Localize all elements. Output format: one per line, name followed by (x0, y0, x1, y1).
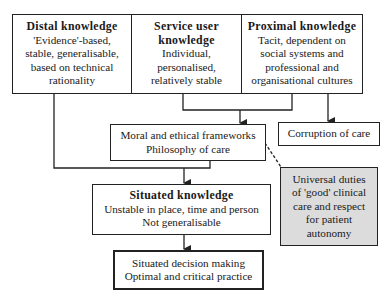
universal-line-3: care and respect (293, 200, 365, 213)
situated-line-2: Not generalisable (142, 216, 221, 229)
distal-line-3: based on technical (31, 61, 114, 74)
distal-knowledge-box: Distal knowledge 'Evidence'-based, stabl… (12, 14, 132, 94)
situated-knowledge-box: Situated knowledge Unstable in place, ti… (92, 184, 271, 235)
decision-line-1: Situated decision making (132, 257, 245, 270)
moral-ethical-frameworks-box: Moral and ethical frameworks Philosophy … (110, 124, 266, 161)
distal-title: Distal knowledge (27, 20, 118, 33)
corruption-line-1: Corruption of care (288, 127, 371, 140)
proximal-line-3: professional and (265, 61, 339, 74)
situated-line-1: Unstable in place, time and person (104, 203, 259, 216)
service-user-knowledge-box: Service user knowledge Individual, perso… (131, 14, 242, 94)
service-title-2: knowledge (158, 34, 214, 47)
proximal-line-1: Tacit, dependent on (258, 34, 346, 47)
proximal-line-4: organisational cultures (251, 74, 352, 87)
universal-line-1: Universal duties (292, 173, 365, 186)
moral-line-2: Philosophy of care (146, 143, 230, 156)
distal-line-2: stable, generalisable, (25, 47, 119, 60)
service-line-1: Individual, (162, 47, 211, 60)
distal-line-4: rationality (49, 74, 95, 87)
proximal-title: Proximal knowledge (248, 20, 356, 33)
service-line-3: relatively stable (151, 74, 222, 87)
distal-line-1: 'Evidence'-based, (33, 34, 111, 47)
universal-line-5: autonomy (307, 227, 352, 240)
universal-line-4: for patient (306, 213, 352, 226)
decision-line-2: Optimal and critical practice (125, 270, 253, 283)
universal-duties-box: Universal duties of 'good' clinical care… (280, 167, 378, 246)
corruption-of-care-box: Corruption of care (278, 122, 380, 146)
proximal-line-2: social systems and (260, 47, 343, 60)
universal-line-2: of 'good' clinical (292, 186, 366, 199)
situated-decision-making-box: Situated decision making Optimal and cri… (113, 250, 264, 290)
situated-title: Situated knowledge (129, 189, 233, 202)
moral-line-1: Moral and ethical frameworks (120, 129, 255, 142)
service-title-1: Service user (154, 20, 219, 33)
proximal-knowledge-box: Proximal knowledge Tacit, dependent on s… (241, 14, 363, 94)
service-line-2: personalised, (157, 61, 216, 74)
